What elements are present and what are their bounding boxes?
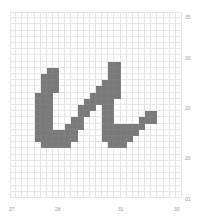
y-label: 20: [185, 105, 191, 111]
y-label: 30: [185, 55, 191, 61]
x-label: 27: [9, 206, 15, 212]
grid-cell[interactable]: [176, 192, 182, 198]
y-label: 35: [185, 14, 191, 20]
x-label: 30: [174, 206, 180, 212]
x-label: 31: [118, 206, 124, 212]
y-label: 01: [185, 196, 191, 202]
pixel-grid[interactable]: [10, 12, 182, 198]
x-label: 28: [55, 206, 61, 212]
y-label: 20: [185, 155, 191, 161]
